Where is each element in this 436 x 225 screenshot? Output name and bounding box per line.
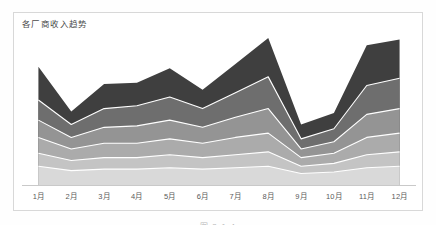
x-tick-10: 10月 [317, 189, 350, 205]
x-tick-3: 3月 [88, 189, 121, 205]
figure-container: 各厂商收入趋势 1月 2月 3月 4月 5月 6月 7月 8月 9月 10月 1… [0, 0, 436, 225]
figure-caption-text: 图 2-1-4 [200, 222, 236, 225]
chart-frame: 各厂商收入趋势 1月 2月 3月 4月 5月 6月 7月 8月 9月 10月 1… [13, 12, 423, 211]
x-tick-4: 4月 [120, 189, 153, 205]
stacked-area-plot [22, 35, 416, 185]
x-tick-7: 7月 [219, 189, 252, 205]
x-tick-1: 1月 [22, 189, 55, 205]
x-tick-9: 9月 [285, 189, 318, 205]
area-series-group [38, 38, 399, 185]
x-tick-8: 8月 [252, 189, 285, 205]
x-axis-tick-labels: 1月 2月 3月 4月 5月 6月 7月 8月 9月 10月 11月 12月 [22, 189, 416, 205]
stacked-area-svg [22, 35, 416, 185]
x-tick-11: 11月 [350, 189, 383, 205]
x-tick-12: 12月 [383, 189, 416, 205]
figure-caption: 图 2-1-4 [0, 216, 436, 225]
x-tick-5: 5月 [153, 189, 186, 205]
x-tick-2: 2月 [55, 189, 88, 205]
chart-title: 各厂商收入趋势 [22, 19, 88, 30]
x-tick-6: 6月 [186, 189, 219, 205]
x-axis-line [22, 185, 416, 186]
